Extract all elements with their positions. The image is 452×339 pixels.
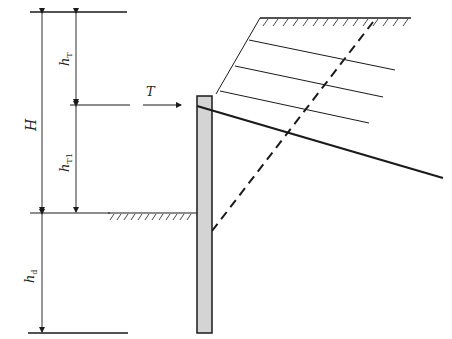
anchor-tendon [197, 106, 443, 178]
label-T: T [146, 84, 156, 99]
label-hT: hT [57, 52, 74, 66]
label-hT1: hT1 [57, 153, 74, 172]
retaining-wall [197, 96, 212, 333]
excavation-ground-surface [108, 213, 197, 220]
label-hd: hd [22, 270, 39, 284]
label-H: H [23, 118, 39, 132]
soil-layer-lines [220, 40, 395, 123]
failure-plane-dashed [212, 22, 373, 231]
retaining-wall-diagram: H hT hT1 hd T [0, 0, 452, 339]
